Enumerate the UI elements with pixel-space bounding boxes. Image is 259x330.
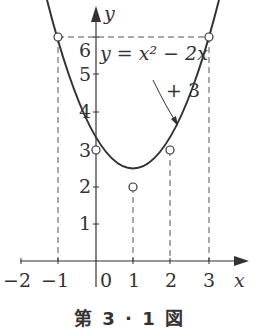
y-tick-5: 5 [79, 63, 91, 85]
point-2-3 [166, 146, 174, 154]
y-axis-label: y [103, 2, 115, 24]
x-tick-3: 3 [203, 269, 215, 291]
x-tick-2: 2 [165, 269, 177, 291]
point-1-2 [129, 183, 137, 191]
x-axis-arrow-icon [234, 256, 249, 266]
x-tick-neg1: −1 [41, 269, 69, 291]
point-neg1-6 [54, 33, 62, 41]
parabola-figure: y x 0 −2 −1 1 2 3 1 2 3 4 5 6 y = x² − 2… [0, 0, 259, 305]
point-3-6 [205, 33, 213, 41]
y-axis-arrow-icon [91, 6, 101, 22]
arrowhead-icon [171, 116, 178, 126]
origin-label: 0 [100, 269, 112, 291]
x-tick-1: 1 [128, 269, 140, 291]
y-tick-2: 2 [79, 175, 91, 197]
equation-line-2: + 3 [166, 79, 200, 101]
figure-caption: 第 3 · 1 図 [0, 304, 259, 330]
y-tick-1: 1 [79, 212, 91, 234]
x-tick-neg2: −2 [3, 269, 31, 291]
y-tick-3: 3 [79, 139, 91, 161]
y-tick-6: 6 [79, 39, 91, 61]
point-0-3 [92, 146, 100, 154]
x-axis-label: x [234, 269, 245, 291]
ticks [21, 37, 209, 264]
y-tick-4: 4 [79, 100, 91, 122]
equation-line-1: y = x² − 2x [99, 42, 208, 64]
